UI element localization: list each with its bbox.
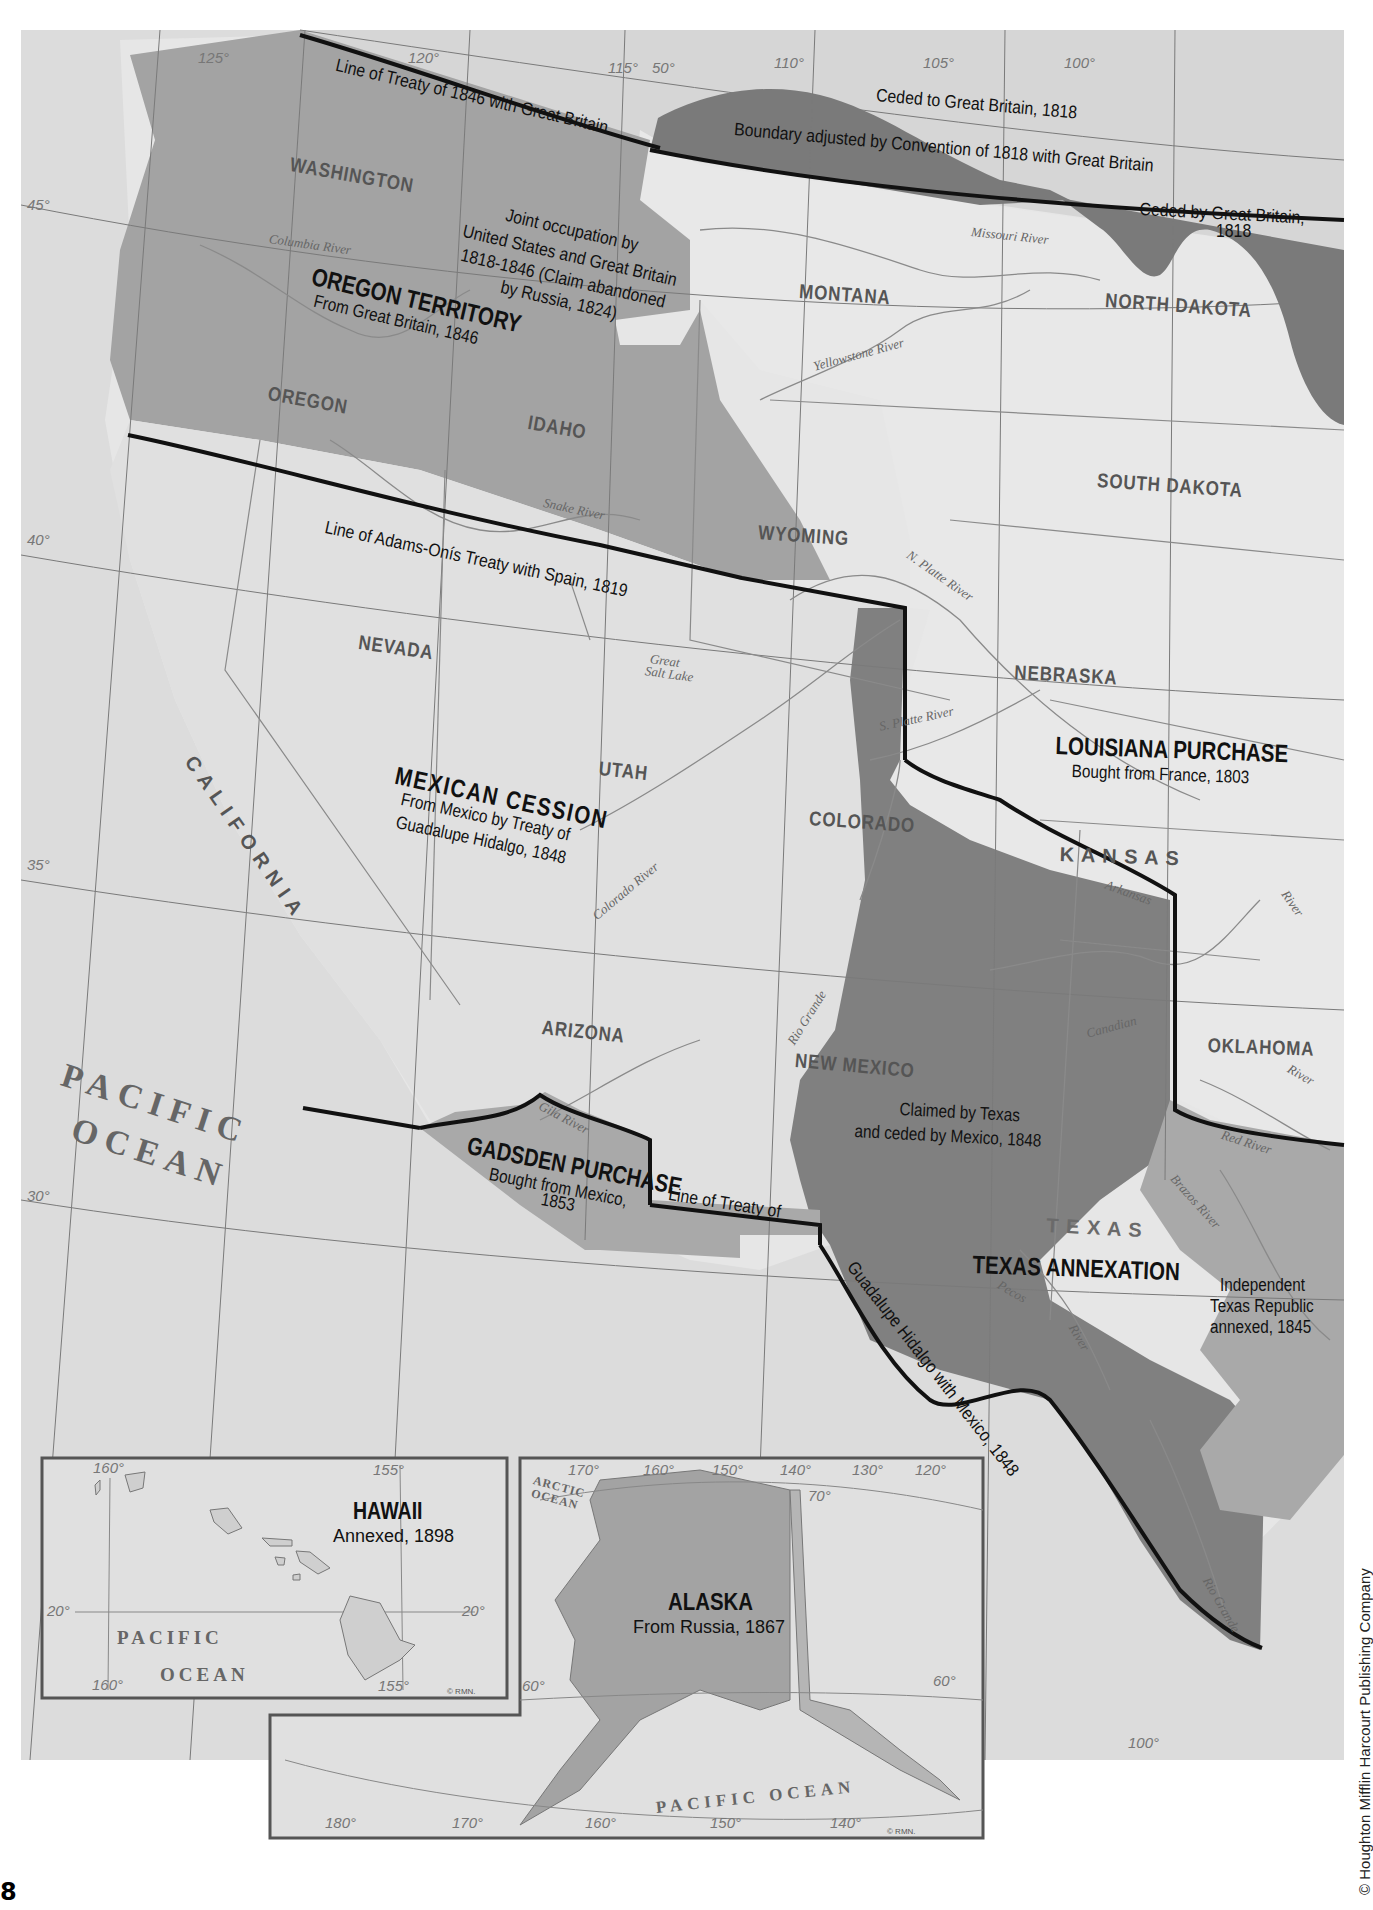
deg-lon-110: 110° xyxy=(774,55,804,70)
deg-lon-120: 120° xyxy=(408,50,439,65)
copyright-notice: © Houghton Mifflin Harcourt Publishing C… xyxy=(1356,1568,1373,1895)
texas-republic-line-2: Texas Republic xyxy=(1210,1297,1314,1315)
hawaii-deg-160-top: 160° xyxy=(93,1460,124,1475)
alaska-deg-170: 170° xyxy=(568,1462,599,1477)
deg-lon-100-bottom: 100° xyxy=(1128,1735,1159,1750)
state-oklahoma: OKLAHOMA xyxy=(1207,1035,1315,1059)
deg-lon-105: 105° xyxy=(923,55,954,70)
alaska-deg-160-bottom: 160° xyxy=(585,1815,616,1830)
hawaii-credit: © RMN. xyxy=(447,1688,476,1696)
alaska-deg-160: 160° xyxy=(643,1462,674,1477)
hawaii-subtitle: Annexed, 1898 xyxy=(333,1527,454,1545)
texas-republic-line-3: annexed, 1845 xyxy=(1210,1318,1311,1336)
alaska-deg-60: 60° xyxy=(522,1678,545,1693)
deg-lat-30: 30° xyxy=(27,1188,50,1203)
alaska-deg-140-bottom: 140° xyxy=(830,1815,861,1830)
page-number: 8 xyxy=(0,1878,17,1906)
alaska-credit: © RMN. xyxy=(887,1828,916,1836)
hawaii-deg-155-bottom: 155° xyxy=(378,1678,409,1693)
hawaii-deg-20-left: 20° xyxy=(47,1603,70,1618)
deg-lat-50: 50° xyxy=(652,60,675,75)
state-kansas: K A N S A S xyxy=(1059,844,1180,868)
hawaii-deg-20-right: 20° xyxy=(462,1603,485,1618)
alaska-deg-130: 130° xyxy=(852,1462,883,1477)
alaska-deg-180-bottom: 180° xyxy=(325,1815,356,1830)
deg-lat-45: 45° xyxy=(27,197,50,212)
hawaii-deg-155-top: 155° xyxy=(373,1462,404,1477)
alaska-deg-70: 70° xyxy=(808,1488,831,1503)
state-nebraska: NEBRASKA xyxy=(1014,662,1118,687)
deg-lat-40: 40° xyxy=(27,532,50,547)
deg-lon-115: 115° xyxy=(608,60,638,75)
texas-republic-line-1: Independent xyxy=(1220,1276,1305,1294)
deg-lat-35: 35° xyxy=(27,857,50,872)
alaska-title: ALASKA xyxy=(668,1590,753,1614)
state-utah: UTAH xyxy=(598,758,649,783)
deg-lon-100: 100° xyxy=(1064,55,1095,70)
hawaii-deg-160-bottom: 160° xyxy=(92,1677,123,1692)
alaska-deg-140: 140° xyxy=(780,1462,811,1477)
alaska-deg-150-bottom: 150° xyxy=(710,1815,741,1830)
ceded-by-gb-label-2: 1818 xyxy=(1216,222,1251,240)
hawaii-ocean-label-2: OCEAN xyxy=(160,1665,249,1684)
alaska-deg-150: 150° xyxy=(712,1462,743,1477)
state-texas: T E X A S xyxy=(1046,1215,1143,1240)
deg-lon-125: 125° xyxy=(198,50,229,65)
hawaii-title: HAWAII xyxy=(353,1500,423,1523)
alaska-deg-120: 120° xyxy=(915,1462,946,1477)
alaska-subtitle: From Russia, 1867 xyxy=(633,1618,785,1636)
alaska-deg-170-bottom: 170° xyxy=(452,1815,483,1830)
alaska-deg-60-right: 60° xyxy=(933,1673,956,1688)
hawaii-inset xyxy=(42,1458,507,1698)
hawaii-ocean-label-1: PACIFIC xyxy=(117,1628,223,1647)
